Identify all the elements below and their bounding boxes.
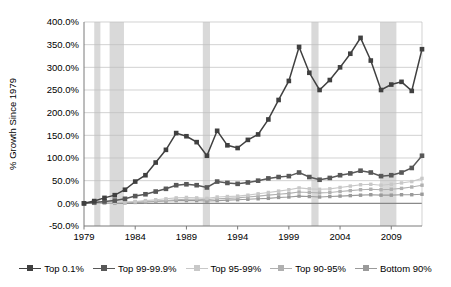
data-point-marker xyxy=(317,177,322,182)
legend-entry[interactable]: Top 90-95% xyxy=(270,263,346,274)
data-point-marker xyxy=(164,148,169,153)
data-point-marker xyxy=(174,183,179,188)
data-point-marker xyxy=(297,45,302,50)
data-point-marker xyxy=(328,195,331,198)
data-point-marker xyxy=(235,146,240,151)
data-point-marker xyxy=(379,188,382,191)
data-point-marker xyxy=(379,88,384,93)
data-point-marker xyxy=(266,117,271,122)
y-axis-tick-label: 300.0% xyxy=(47,62,80,73)
data-point-marker xyxy=(133,179,138,184)
recession-band xyxy=(203,22,210,226)
y-axis-tick-label: 350.0% xyxy=(47,39,80,50)
data-point-marker xyxy=(184,134,189,139)
series-top-0-1- xyxy=(82,36,425,206)
data-point-marker xyxy=(379,184,382,187)
data-point-marker xyxy=(205,185,210,190)
data-point-marker xyxy=(318,188,321,191)
data-point-marker xyxy=(358,168,363,173)
data-point-marker xyxy=(318,191,321,194)
data-point-marker xyxy=(338,173,343,178)
legend-label: Top 90-95% xyxy=(295,263,346,274)
data-point-marker xyxy=(358,36,363,41)
x-axis-tick-label: 1984 xyxy=(125,231,146,242)
legend-swatch-icon xyxy=(93,264,115,273)
data-point-marker xyxy=(399,80,404,85)
data-point-marker xyxy=(277,193,280,196)
data-point-marker xyxy=(267,197,270,200)
data-point-marker xyxy=(400,181,403,184)
x-axis-tick-label: 1994 xyxy=(227,231,248,242)
y-axis-tick-label: 200.0% xyxy=(47,107,80,118)
data-point-marker xyxy=(308,195,311,198)
data-point-marker xyxy=(420,47,425,52)
data-point-marker xyxy=(134,200,137,203)
y-axis-tick-label: 100.0% xyxy=(47,152,80,163)
data-point-marker xyxy=(409,89,414,94)
data-point-marker xyxy=(400,187,403,190)
data-point-marker xyxy=(226,195,229,198)
data-point-marker xyxy=(235,182,240,187)
data-point-marker xyxy=(123,197,128,202)
data-point-marker xyxy=(409,166,414,171)
data-point-marker xyxy=(297,186,300,189)
data-point-marker xyxy=(338,186,341,189)
data-point-marker xyxy=(328,187,331,190)
data-point-marker xyxy=(420,177,423,180)
data-point-marker xyxy=(215,179,220,184)
chart-plot-area: -50.0%0.0%50.0%100.0%150.0%200.0%250.0%3… xyxy=(0,0,451,287)
data-point-marker xyxy=(369,188,372,191)
legend-entry[interactable]: Bottom 90% xyxy=(355,263,432,274)
data-point-marker xyxy=(246,180,251,185)
legend-swatch-icon xyxy=(19,264,41,273)
data-point-marker xyxy=(369,193,372,196)
data-point-marker xyxy=(256,178,261,183)
data-point-marker xyxy=(348,51,353,56)
data-point-marker xyxy=(164,197,167,200)
data-point-marker xyxy=(256,132,261,137)
data-point-marker xyxy=(236,194,239,197)
y-axis-tick-label: 150.0% xyxy=(47,130,80,141)
data-point-marker xyxy=(379,193,382,196)
data-point-marker xyxy=(205,197,208,200)
data-point-marker xyxy=(184,182,189,187)
data-point-marker xyxy=(174,131,179,136)
data-point-marker xyxy=(266,176,271,181)
data-point-marker xyxy=(287,195,290,198)
y-axis-tick-label: -50.0% xyxy=(49,220,80,231)
legend-swatch-icon xyxy=(186,264,208,273)
recession-band xyxy=(94,22,100,226)
legend-entry[interactable]: Top 99-99.9% xyxy=(93,263,177,274)
data-point-marker xyxy=(328,191,331,194)
data-point-marker xyxy=(390,193,393,196)
data-point-marker xyxy=(297,170,302,175)
data-point-marker xyxy=(328,78,333,83)
y-axis-tick-label: 0.0% xyxy=(57,198,79,209)
legend-label: Bottom 90% xyxy=(380,263,432,274)
data-point-marker xyxy=(318,195,321,198)
data-point-marker xyxy=(82,201,87,206)
data-point-marker xyxy=(348,171,353,176)
data-point-marker xyxy=(205,153,210,158)
y-axis-title: % Growth Since 1979 xyxy=(7,78,18,170)
data-point-marker xyxy=(399,170,404,175)
data-point-marker xyxy=(338,190,341,193)
data-point-marker xyxy=(379,174,384,179)
data-point-marker xyxy=(194,183,199,188)
data-point-marker xyxy=(368,170,373,175)
y-axis-tick-label: 400.0% xyxy=(47,16,80,27)
data-point-marker xyxy=(195,196,198,199)
legend-entry[interactable]: Top 95-99% xyxy=(186,263,262,274)
data-point-marker xyxy=(287,188,290,191)
data-point-marker xyxy=(123,187,128,192)
data-point-marker xyxy=(338,194,341,197)
data-point-marker xyxy=(349,189,352,192)
legend-label: Top 99-99.9% xyxy=(118,263,177,274)
data-point-marker xyxy=(400,193,403,196)
data-point-marker xyxy=(368,58,373,63)
data-point-marker xyxy=(389,82,394,87)
legend-entry[interactable]: Top 0.1% xyxy=(19,263,84,274)
data-point-marker xyxy=(215,195,218,198)
legend-label: Top 0.1% xyxy=(44,263,84,274)
data-point-marker xyxy=(420,184,423,187)
